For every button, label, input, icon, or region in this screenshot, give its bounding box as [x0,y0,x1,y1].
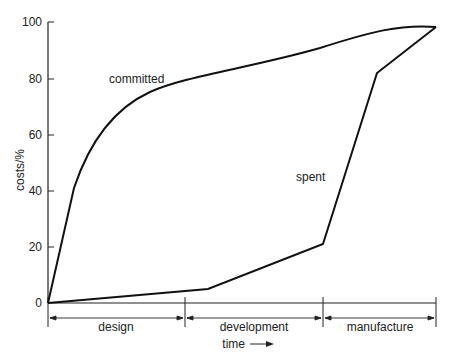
y-axis-label: costs/% [13,149,27,191]
y-ticks [48,22,54,247]
y-tick-80: 80 [29,72,43,86]
phase-manufacture-label: manufacture [347,320,414,334]
time-arrow-icon [250,341,274,347]
x-axis-label: time [222,337,245,351]
y-tick-60: 60 [29,128,43,142]
committed-line [48,26,436,303]
y-tick-100: 100 [22,15,42,29]
y-tick-20: 20 [29,240,43,254]
y-tick-0: 0 [35,296,42,310]
y-tick-40: 40 [29,184,43,198]
phase-design-label: design [98,320,133,334]
cost-chart: 100 80 60 40 20 0 costs/% design develop… [0,0,452,360]
committed-label: committed [109,72,164,86]
spent-label: spent [296,170,326,184]
phase-development-label: development [220,320,289,334]
spent-line [48,27,436,303]
